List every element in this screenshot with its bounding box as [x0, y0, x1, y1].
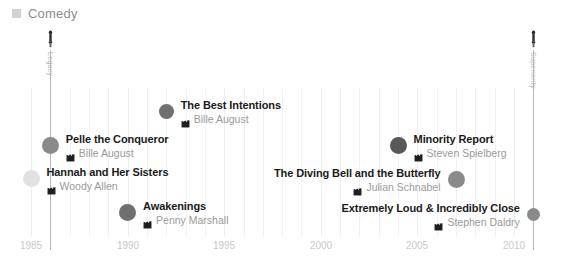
film-text: The Best IntentionsBille August: [181, 99, 281, 125]
film-director: Steven Spielberg: [427, 147, 507, 159]
film-dot[interactable]: [527, 208, 540, 221]
film-director-row: Bille August: [181, 113, 249, 125]
clapperboard-icon: [181, 114, 190, 123]
film-dot[interactable]: [42, 137, 59, 154]
film-title: The Best Intentions: [181, 99, 281, 112]
xaxis-tick-label: 1985: [20, 240, 42, 251]
oscar-statuette-icon: [45, 30, 56, 50]
film-director-row: Steven Spielberg: [414, 147, 507, 159]
plot-area: LegacySuperiorityThe Best IntentionsBill…: [0, 0, 564, 240]
film-text: Minority ReportSteven Spielberg: [414, 133, 507, 159]
timeline-chart: Comedy LegacySuperiorityThe Best Intenti…: [0, 0, 564, 268]
film-title: Extremely Loud & Incredibly Close: [342, 202, 520, 215]
film-title: Pelle the Conqueror: [66, 133, 169, 146]
film-entry[interactable]: The Diving Bell and the ButterflyJulian …: [0, 167, 465, 193]
xaxis-tick-label: 2005: [406, 240, 428, 251]
film-director: Julian Schnabel: [366, 181, 440, 193]
film-title: The Diving Bell and the Butterfly: [274, 167, 441, 180]
xaxis-tick-label: 2000: [310, 240, 332, 251]
film-text: Pelle the ConquerorBille August: [66, 133, 169, 159]
film-director-row: Stephen Daldry: [434, 216, 519, 228]
xaxis-tick-label: 1995: [213, 240, 235, 251]
film-entry[interactable]: The Best IntentionsBille August: [159, 99, 281, 125]
award-axis-label: Superiority: [530, 52, 537, 89]
film-director: Bille August: [194, 113, 249, 125]
film-entry[interactable]: Pelle the ConquerorBille August: [42, 133, 169, 159]
film-text: The Diving Bell and the ButterflyJulian …: [274, 167, 441, 193]
film-entry[interactable]: Minority ReportSteven Spielberg: [390, 133, 507, 159]
film-director: Stephen Daldry: [447, 216, 519, 228]
clapperboard-icon: [66, 148, 75, 157]
film-entry[interactable]: Extremely Loud & Incredibly CloseStephen…: [0, 202, 540, 228]
xaxis-tick-label: 2010: [503, 240, 525, 251]
film-director-row: Bille August: [66, 147, 134, 159]
film-dot[interactable]: [159, 104, 174, 119]
xaxis-tick-label: 1990: [117, 240, 139, 251]
film-director-row: Julian Schnabel: [353, 181, 440, 193]
film-director: Bille August: [79, 147, 134, 159]
film-text: Extremely Loud & Incredibly CloseStephen…: [342, 202, 520, 228]
clapperboard-icon: [434, 217, 443, 226]
film-title: Minority Report: [414, 133, 494, 146]
film-dot[interactable]: [390, 137, 407, 154]
award-axis-label: Legacy: [47, 52, 54, 76]
clapperboard-icon: [414, 148, 423, 157]
oscar-statuette-icon: [528, 30, 539, 50]
film-dot[interactable]: [448, 171, 465, 188]
clapperboard-icon: [353, 182, 362, 191]
